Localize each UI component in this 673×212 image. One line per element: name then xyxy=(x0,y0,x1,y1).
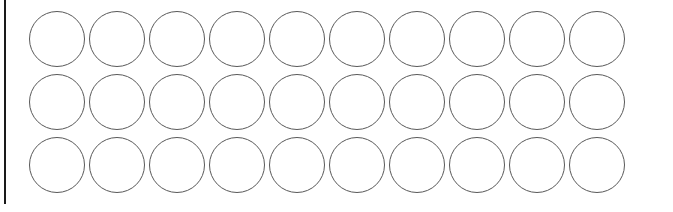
circle-cell[interactable] xyxy=(389,11,445,67)
circle-cell[interactable] xyxy=(269,74,325,130)
circle-cell[interactable] xyxy=(209,11,265,67)
circle-cell[interactable] xyxy=(209,74,265,130)
circle-cell[interactable] xyxy=(449,74,505,130)
circle-grid-canvas xyxy=(0,0,673,212)
circle-icon xyxy=(89,11,145,67)
circle-cell[interactable] xyxy=(149,137,205,193)
circle-icon xyxy=(569,11,625,67)
circle-icon xyxy=(569,74,625,130)
circle-icon xyxy=(269,137,325,193)
circle-icon xyxy=(449,74,505,130)
circle-row xyxy=(0,74,673,130)
circle-cell[interactable] xyxy=(509,74,565,130)
circle-cell[interactable] xyxy=(449,137,505,193)
circle-cell[interactable] xyxy=(329,11,385,67)
circle-icon xyxy=(29,74,85,130)
circle-icon xyxy=(509,74,565,130)
circle-icon xyxy=(329,11,385,67)
circle-cell[interactable] xyxy=(29,11,85,67)
circle-icon xyxy=(269,74,325,130)
circle-icon xyxy=(29,137,85,193)
circle-cell[interactable] xyxy=(269,11,325,67)
circle-cell[interactable] xyxy=(389,137,445,193)
circle-cell[interactable] xyxy=(569,137,625,193)
circle-icon xyxy=(329,74,385,130)
circle-icon xyxy=(329,137,385,193)
circle-icon xyxy=(149,11,205,67)
circle-icon xyxy=(209,11,265,67)
circle-icon xyxy=(89,137,145,193)
circle-icon xyxy=(509,137,565,193)
circle-cell[interactable] xyxy=(389,74,445,130)
circle-cell[interactable] xyxy=(569,11,625,67)
circle-icon xyxy=(449,137,505,193)
circle-icon xyxy=(269,11,325,67)
circle-cell[interactable] xyxy=(89,137,145,193)
circle-cell[interactable] xyxy=(329,137,385,193)
circle-cell[interactable] xyxy=(149,11,205,67)
circle-cell[interactable] xyxy=(29,137,85,193)
circle-icon xyxy=(29,11,85,67)
circle-row xyxy=(0,137,673,193)
circle-icon xyxy=(149,137,205,193)
circle-icon xyxy=(209,137,265,193)
circle-icon xyxy=(149,74,205,130)
circle-cell[interactable] xyxy=(29,74,85,130)
circle-cell[interactable] xyxy=(89,74,145,130)
circle-icon xyxy=(569,137,625,193)
circle-icon xyxy=(389,74,445,130)
circle-cell[interactable] xyxy=(449,11,505,67)
circle-icon xyxy=(389,11,445,67)
circle-icon xyxy=(209,74,265,130)
circle-icon xyxy=(89,74,145,130)
circle-cell[interactable] xyxy=(509,137,565,193)
circle-row xyxy=(0,11,673,67)
circle-cell[interactable] xyxy=(89,11,145,67)
circle-icon xyxy=(449,11,505,67)
circle-cell[interactable] xyxy=(329,74,385,130)
circle-cell[interactable] xyxy=(269,137,325,193)
circle-cell[interactable] xyxy=(509,11,565,67)
circle-cell[interactable] xyxy=(209,137,265,193)
circle-cell[interactable] xyxy=(149,74,205,130)
circle-icon xyxy=(509,11,565,67)
circle-cell[interactable] xyxy=(569,74,625,130)
circle-grid xyxy=(0,0,673,212)
circle-icon xyxy=(389,137,445,193)
